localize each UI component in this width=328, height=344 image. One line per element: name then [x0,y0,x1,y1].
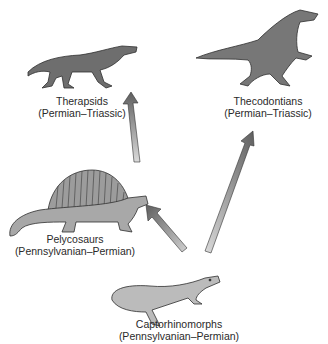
label-captorhinomorphs: Captorhinomorphs (Pennsylvanian–Permian) [94,318,264,342]
label-thecodontians: Thecodontians (Permian–Triassic) [208,95,328,119]
therapsids-name: Therapsids [22,95,142,107]
therapsid-illustration [28,46,137,88]
label-pelycosaurs: Pelycosaurs (Pennsylvanian–Permian) [0,233,150,257]
thecodontian-illustration [196,10,318,86]
pelycosaur-illustration [10,170,148,236]
arrow-captorhinomorphs-to-thecodontians [205,131,254,253]
captorhinomorphs-period: (Pennsylvanian–Permian) [94,330,264,342]
label-therapsids: Therapsids (Permian–Triassic) [22,95,142,119]
evolution-diagram: Therapsids (Permian–Triassic) Thecodonti… [0,0,328,344]
diagram-canvas [0,0,328,344]
thecodontians-period: (Permian–Triassic) [208,107,328,119]
thecodontians-name: Thecodontians [208,95,328,107]
arrow-captorhinomorphs-to-pelycosaurs [146,205,187,252]
pelycosaurs-period: (Pennsylvanian–Permian) [0,245,150,257]
pelycosaurs-name: Pelycosaurs [0,233,150,245]
captorhinomorphs-name: Captorhinomorphs [94,318,264,330]
therapsids-period: (Permian–Triassic) [22,107,142,119]
